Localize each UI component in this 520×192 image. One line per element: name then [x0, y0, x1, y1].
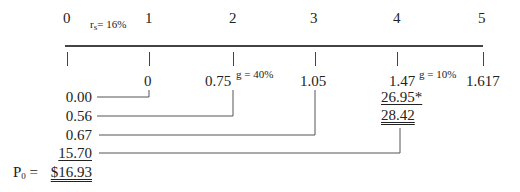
connector-year-1 — [97, 90, 149, 97]
connector-year-4 — [99, 128, 400, 153]
discount-connectors — [0, 0, 520, 192]
connector-year-2 — [97, 90, 233, 116]
